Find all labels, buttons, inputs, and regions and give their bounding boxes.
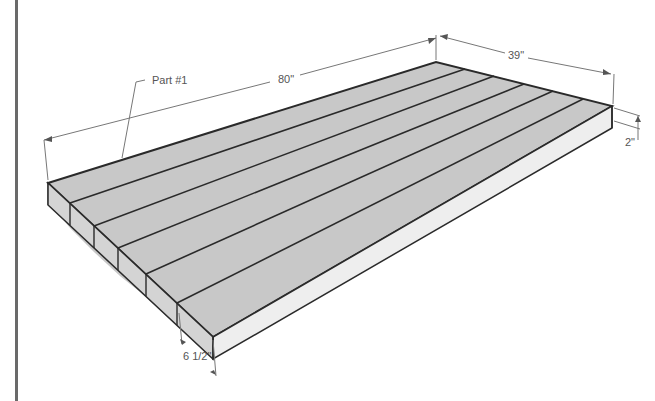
dimension-length-label: 80" (278, 73, 294, 85)
dimension-width-label: 39" (508, 49, 524, 61)
dimension-board-width-label: 6 1/2" (183, 350, 211, 362)
dimension-thickness-label: 2" (625, 136, 635, 148)
part-label: Part #1 (152, 74, 187, 86)
tabletop-drawing: 80" 39" 2" 6 1/2" Part #1 (0, 0, 655, 401)
boards (48, 62, 612, 359)
